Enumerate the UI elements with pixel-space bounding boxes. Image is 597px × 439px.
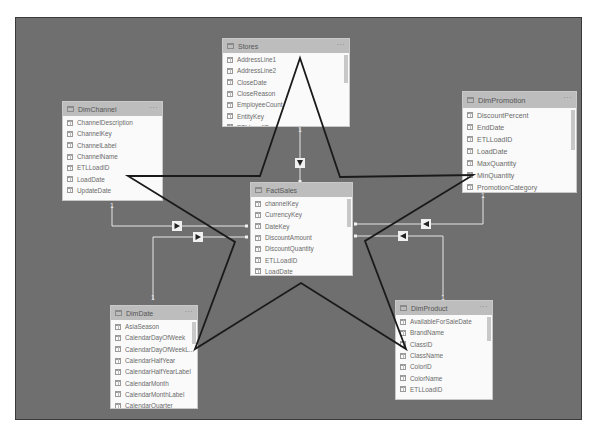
column-row[interactable]: CalendarMonth <box>111 377 197 388</box>
column-row[interactable]: AsiaSeason <box>111 321 197 332</box>
column-row[interactable]: CurrencyKey <box>251 209 352 220</box>
column-row[interactable]: AddressLine2 <box>223 65 349 76</box>
column-icon <box>67 187 73 193</box>
column-icon <box>400 375 406 381</box>
column-icon <box>255 268 261 274</box>
column-icon <box>467 124 473 130</box>
table-name: Stores <box>238 43 258 50</box>
table-dimchannel[interactable]: DimChannel ··· ChannelDescription Channe… <box>62 101 163 201</box>
column-row[interactable]: LoadDate <box>63 173 162 184</box>
column-row[interactable]: ETLLoadID <box>463 133 576 145</box>
column-row[interactable]: CalendarDayOfWeek <box>111 332 197 343</box>
column-row[interactable]: PromotionCategory <box>463 181 576 193</box>
table-factsales[interactable]: FactSales channelKey CurrencyKey DateKey… <box>250 182 353 276</box>
column-name: DiscountPercent <box>477 112 528 119</box>
direction-marker-dimpromotion[interactable] <box>421 219 431 229</box>
column-row[interactable]: ChannelDescription <box>63 117 162 128</box>
column-row[interactable]: ChannelLabel <box>63 140 162 151</box>
relationship-dimdate-factsales[interactable] <box>153 237 246 300</box>
column-icon <box>255 257 261 263</box>
column-row[interactable]: ETLLoadID <box>223 122 349 127</box>
more-options-icon[interactable]: ··· <box>337 41 346 48</box>
column-row[interactable]: DiscountPercent <box>463 109 576 121</box>
column-list: AsiaSeason CalendarDayOfWeek CalendarDay… <box>111 320 197 409</box>
table-dimproduct[interactable]: DimProduct ··· AvailableForSaleDate Bran… <box>395 300 493 400</box>
column-icon <box>115 346 121 352</box>
column-row[interactable]: ClassID <box>396 339 492 350</box>
column-name: CalendarQuarter <box>125 402 173 409</box>
column-row[interactable]: DiscountQuantity <box>251 243 352 254</box>
column-row[interactable]: ETLLoadID <box>396 384 492 395</box>
column-row[interactable]: EmployeeCount <box>223 99 349 110</box>
table-header[interactable]: DimDate ··· <box>111 306 197 320</box>
more-options-icon[interactable]: ··· <box>185 308 194 315</box>
relationship-dimpromotion-factsales[interactable] <box>356 196 483 224</box>
table-header[interactable]: FactSales <box>251 183 352 197</box>
column-name: LoadDate <box>77 176 105 183</box>
relationship-dimproduct-factsales[interactable] <box>356 236 443 296</box>
column-name: ColorName <box>410 375 442 382</box>
column-row[interactable]: CalendarHalfYearLabel <box>111 366 197 377</box>
table-name: DimChannel <box>78 106 117 113</box>
column-name: ETLLoadID <box>410 386 442 393</box>
table-header[interactable]: DimPromotion ··· <box>463 92 576 108</box>
column-row[interactable]: EntityKey <box>223 110 349 121</box>
column-row[interactable]: BrandName <box>396 327 492 338</box>
more-options-icon[interactable]: ··· <box>480 303 489 310</box>
direction-marker-stores[interactable] <box>295 158 305 168</box>
column-row[interactable]: AddressLine1 <box>223 54 349 65</box>
scrollbar[interactable] <box>571 110 575 150</box>
column-row[interactable]: ColorID <box>396 361 492 372</box>
column-row[interactable]: ColorName <box>396 372 492 383</box>
column-icon <box>115 369 121 375</box>
column-list: ChannelDescription ChannelKey ChannelLab… <box>63 116 162 196</box>
table-dimdate[interactable]: DimDate ··· AsiaSeason CalendarDayOfWeek… <box>110 305 198 409</box>
table-stores[interactable]: Stores ··· AddressLine1 AddressLine2 Clo… <box>222 38 350 127</box>
column-icon <box>255 235 261 241</box>
column-row[interactable]: UpdateDate <box>63 185 162 196</box>
column-row[interactable]: MaxQuantity <box>463 157 576 169</box>
column-icon <box>115 358 121 364</box>
column-name: ColorID <box>410 363 432 370</box>
direction-marker-dimproduct[interactable] <box>398 231 408 241</box>
column-row[interactable]: channelKey <box>251 198 352 209</box>
column-name: CalendarHalfYearLabel <box>125 368 191 375</box>
column-icon <box>115 391 121 397</box>
column-icon <box>400 341 406 347</box>
column-row[interactable]: MinQuantity <box>463 169 576 181</box>
column-icon <box>115 335 121 341</box>
column-row[interactable]: DateKey <box>251 221 352 232</box>
scrollbar[interactable] <box>347 199 351 227</box>
column-row[interactable]: ClassName <box>396 350 492 361</box>
column-name: CalendarDayOfWeek <box>125 334 185 341</box>
scrollbar[interactable] <box>487 317 491 341</box>
column-row[interactable]: ChannelKey <box>63 128 162 139</box>
direction-marker-dimchannel[interactable] <box>172 221 182 231</box>
table-dimpromotion[interactable]: DimPromotion ··· DiscountPercent EndDate… <box>462 91 577 193</box>
column-row[interactable]: CloseDate <box>223 77 349 88</box>
column-row[interactable]: LoadDate <box>463 145 576 157</box>
table-header[interactable]: DimProduct ··· <box>396 301 492 315</box>
column-row[interactable]: LoadDate <box>251 266 352 276</box>
scrollbar[interactable] <box>344 55 348 83</box>
column-row[interactable]: EndDate <box>463 121 576 133</box>
column-icon <box>227 124 233 127</box>
column-row[interactable]: CalendarQuarter <box>111 400 197 409</box>
column-row[interactable]: AvailableForSaleDate <box>396 316 492 327</box>
column-icon <box>115 403 121 409</box>
column-icon <box>467 112 473 118</box>
table-header[interactable]: DimChannel ··· <box>63 102 162 116</box>
column-row[interactable]: ETLLoadID <box>251 254 352 265</box>
column-row[interactable]: CalendarMonthLabel <box>111 389 197 400</box>
direction-marker-dimdate[interactable] <box>193 232 203 242</box>
column-row[interactable]: ChannelName <box>63 151 162 162</box>
table-header[interactable]: Stores ··· <box>223 39 349 53</box>
more-options-icon[interactable]: ··· <box>564 94 573 101</box>
column-row[interactable]: CalendarHalfYear <box>111 355 197 366</box>
column-row[interactable]: CalendarDayOfWeekL... <box>111 344 197 355</box>
more-options-icon[interactable]: ··· <box>150 104 159 111</box>
column-row[interactable]: DiscountAmount <box>251 232 352 243</box>
column-row[interactable]: CloseReason <box>223 88 349 99</box>
column-row[interactable]: ETLLoadID <box>63 162 162 173</box>
scrollbar[interactable] <box>192 322 196 344</box>
